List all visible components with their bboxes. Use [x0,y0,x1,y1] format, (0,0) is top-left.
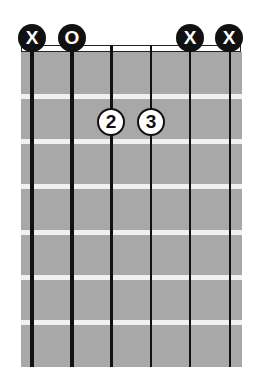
string-1 [30,45,34,367]
fret-line-1 [21,94,242,99]
muted-string-marker: X [176,24,204,52]
string-3 [110,45,113,367]
fret-line-6 [21,320,242,325]
open-string-marker: O [58,24,86,52]
nut [21,45,241,52]
finger-dot: 2 [97,108,125,136]
string-5 [189,45,191,367]
muted-string-marker: X [18,24,46,52]
finger-dot: 3 [137,108,165,136]
fret-line-4 [21,230,242,235]
chord-diagram: X O X X 2 3 [0,0,257,391]
muted-string-marker: X [215,24,243,52]
string-2 [70,45,74,367]
string-4 [150,45,153,367]
fret-line-5 [21,275,242,280]
string-6 [229,45,231,367]
fret-line-3 [21,184,242,189]
fret-line-2 [21,139,242,144]
